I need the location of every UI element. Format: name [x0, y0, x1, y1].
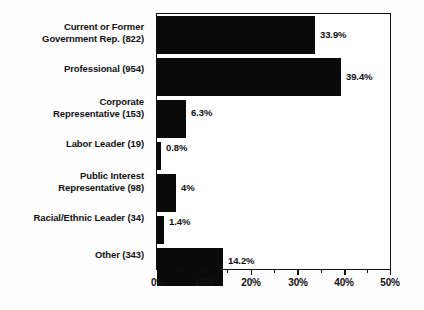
x-tick-major — [297, 270, 298, 275]
bar-value-label: 0.8% — [166, 142, 187, 153]
bar-value-label: 14.2% — [228, 255, 254, 266]
bar-labor-leader — [157, 142, 161, 170]
x-axis-ticks — [157, 270, 391, 276]
bar-chart-figure: Current or Former Government Rep. (822) … — [0, 0, 424, 310]
bar-public-interest-representative — [157, 174, 176, 212]
x-tick-minor — [321, 270, 322, 273]
bar-professional — [157, 58, 341, 96]
x-tick-major — [251, 270, 252, 275]
bar-current-or-former-government-rep — [157, 16, 315, 54]
x-axis-tick-labels: 0% 10% 20% 30% 40% 50% — [0, 277, 424, 293]
bar-racial-ethnic-leader — [157, 216, 164, 244]
category-label: Labor Leader (19) — [66, 138, 144, 150]
category-label: Other (343) — [95, 249, 144, 261]
bar-value-label: 39.4% — [346, 71, 372, 82]
x-tick-label: 40% — [334, 277, 353, 288]
category-label: Professional (954) — [64, 63, 144, 75]
category-axis-labels: Current or Former Government Rep. (822) … — [0, 13, 150, 270]
bar-value-label: 6.3% — [191, 107, 212, 118]
bar-value-label: 33.9% — [320, 29, 346, 40]
bars-layer: 33.9% 39.4% 6.3% 0.8% 4% 1.4% 14.2% — [157, 13, 391, 270]
bar-corporate-representative — [157, 100, 186, 138]
category-label: Public Interest Representative (98) — [58, 170, 144, 193]
category-label: Current or Former Government Rep. (822) — [42, 21, 144, 44]
x-tick-minor — [180, 270, 181, 273]
x-tick-label: 50% — [380, 277, 399, 288]
x-tick-minor — [227, 270, 228, 273]
x-tick-label: 0% — [151, 277, 165, 288]
x-tick-major — [204, 270, 205, 275]
x-tick-label: 20% — [241, 277, 260, 288]
x-tick-minor — [367, 270, 368, 273]
x-tick-major — [344, 270, 345, 275]
x-tick-label: 10% — [194, 277, 213, 288]
x-tick-major — [390, 270, 391, 275]
bar-value-label: 4% — [181, 182, 195, 193]
x-tick-minor — [274, 270, 275, 273]
x-tick-label: 30% — [288, 277, 307, 288]
x-tick-major — [157, 270, 158, 275]
category-label: Racial/Ethnic Leader (34) — [34, 212, 144, 224]
bar-value-label: 1.4% — [169, 216, 190, 227]
category-label: Corporate Representative (153) — [53, 96, 144, 119]
